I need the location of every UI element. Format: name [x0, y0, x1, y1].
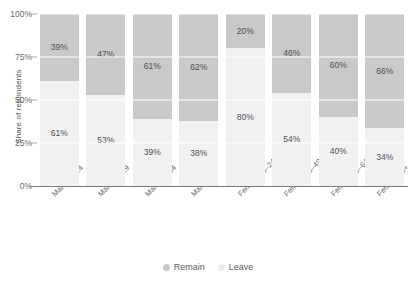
- bar-value-label: 61%: [144, 62, 161, 71]
- x-axis-labels: Male 18–24Male 25–49Male 50–64Male 65+Fe…: [36, 188, 408, 250]
- y-axis-tick-label: 25%: [2, 138, 32, 148]
- y-axis-tick-label: 75%: [2, 52, 32, 62]
- legend-label: Remain: [174, 262, 205, 272]
- plot-area: 39%61%47%53%61%39%62%38%20%80%46%54%60%4…: [36, 14, 408, 186]
- chart-legend: RemainLeave: [0, 262, 416, 272]
- gridline: [36, 57, 408, 58]
- legend-swatch-icon: [218, 264, 225, 271]
- y-axis-tick: [30, 143, 37, 144]
- y-axis-tick-label: 100%: [2, 9, 32, 19]
- bar-segment-remain[interactable]: 39%: [40, 14, 79, 81]
- y-axis: Share of repondents 0%25%50%75%100%: [0, 0, 32, 285]
- y-axis-tick: [30, 100, 37, 101]
- bar-segment-leave[interactable]: 54%: [272, 93, 311, 186]
- legend-label: Leave: [229, 262, 254, 272]
- bar-value-label: 80%: [237, 113, 254, 122]
- legend-swatch-icon: [163, 264, 170, 271]
- bar-segment-remain[interactable]: 62%: [179, 14, 218, 121]
- bar-segment-remain[interactable]: 20%: [226, 14, 265, 48]
- y-axis-tick-label: 50%: [2, 95, 32, 105]
- gridline: [36, 100, 408, 101]
- bar-segment-leave[interactable]: 38%: [179, 121, 218, 186]
- bar-value-label: 61%: [51, 129, 68, 138]
- bar-segment-leave[interactable]: 80%: [226, 48, 265, 186]
- bar-value-label: 60%: [330, 61, 347, 70]
- gridline: [36, 14, 408, 15]
- bar-value-label: 39%: [144, 148, 161, 157]
- y-axis-tick-label: 0%: [2, 181, 32, 191]
- bar-segment-remain[interactable]: 60%: [319, 14, 358, 117]
- stacked-bar-chart: Share of repondents 0%25%50%75%100% 39%6…: [0, 0, 416, 285]
- y-axis-tick: [30, 14, 37, 15]
- x-axis-line: [30, 186, 408, 187]
- bar-segment-leave[interactable]: 40%: [319, 117, 358, 186]
- bar-segment-leave[interactable]: 53%: [86, 95, 125, 186]
- legend-item[interactable]: Remain: [163, 262, 205, 272]
- bar-value-label: 66%: [376, 67, 393, 76]
- bar-segment-leave[interactable]: 39%: [133, 119, 172, 186]
- bar-value-label: 62%: [190, 63, 207, 72]
- bar-segment-remain[interactable]: 47%: [86, 14, 125, 95]
- bar-value-label: 20%: [237, 27, 254, 36]
- y-axis-tick: [30, 57, 37, 58]
- bar-segment-remain[interactable]: 46%: [272, 14, 311, 93]
- bar-value-label: 38%: [190, 149, 207, 158]
- bar-value-label: 34%: [376, 153, 393, 162]
- bar-segment-remain[interactable]: 66%: [365, 14, 404, 128]
- bar-segment-remain[interactable]: 61%: [133, 14, 172, 119]
- bar-segment-leave[interactable]: 34%: [365, 128, 404, 186]
- legend-item[interactable]: Leave: [218, 262, 254, 272]
- bar-value-label: 40%: [330, 147, 347, 156]
- y-axis-title: Share of repondents: [14, 47, 23, 167]
- bar-segment-leave[interactable]: 61%: [40, 81, 79, 186]
- bar-value-label: 39%: [51, 43, 68, 52]
- gridline: [36, 143, 408, 144]
